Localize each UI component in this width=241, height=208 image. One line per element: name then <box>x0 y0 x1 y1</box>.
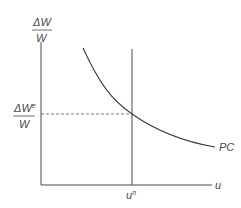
phillips-curve <box>83 48 215 147</box>
curve-label: PC <box>219 141 234 153</box>
y-axis-label-denominator: W <box>36 32 48 44</box>
y-axis-label-numerator: ΔW <box>32 16 52 28</box>
expected-wage-label-numerator: ΔWe <box>13 102 36 114</box>
expected-wage-label-denominator: W <box>19 118 31 130</box>
phillips-curve-diagram: ΔW W u ΔWe W un PC <box>0 0 241 208</box>
natural-rate-label: un <box>126 189 136 201</box>
x-axis-label: u <box>215 179 221 191</box>
